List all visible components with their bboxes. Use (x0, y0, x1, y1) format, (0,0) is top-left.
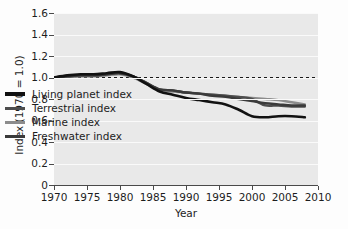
legend-swatch (5, 135, 25, 138)
x-tick-mark (54, 186, 55, 190)
legend-item: Freshwater index (5, 129, 155, 143)
gridline (54, 164, 318, 165)
legend-swatch (5, 107, 25, 110)
gridline (54, 78, 318, 79)
gridline (54, 13, 318, 14)
y-tick-mark (49, 13, 54, 14)
x-tick-label: 2010 (298, 192, 338, 203)
legend-item: Marine index (5, 115, 155, 129)
chart-legend: Living planet indexTerrestrial indexMari… (5, 87, 155, 143)
x-tick-mark (120, 186, 121, 190)
y-tick-label: 1.6 (8, 8, 48, 19)
x-tick-mark (285, 186, 286, 190)
legend-label: Living planet index (32, 89, 132, 100)
legend-item: Living planet index (5, 87, 155, 101)
x-tick-mark (87, 186, 88, 190)
chart-figure: 00.20.40.60.81.01.21.41.6 19701975198019… (0, 0, 348, 229)
x-tick-mark (219, 186, 220, 190)
legend-label: Freshwater index (32, 131, 122, 142)
y-tick-mark (49, 56, 54, 57)
legend-swatch (5, 92, 25, 96)
x-axis-label: Year (54, 207, 318, 219)
x-tick-mark (186, 186, 187, 190)
legend-label: Terrestrial index (32, 103, 116, 114)
y-tick-mark (49, 35, 54, 36)
gridline (54, 35, 318, 36)
gridline (54, 56, 318, 57)
legend-swatch (5, 121, 25, 124)
x-tick-mark (252, 186, 253, 190)
y-tick-label: 0 (8, 180, 48, 191)
legend-label: Marine index (32, 117, 100, 128)
y-tick-mark (49, 78, 54, 79)
x-tick-mark (318, 186, 319, 190)
y-tick-mark (49, 164, 54, 165)
x-tick-mark (153, 186, 154, 190)
legend-item: Terrestrial index (5, 101, 155, 115)
